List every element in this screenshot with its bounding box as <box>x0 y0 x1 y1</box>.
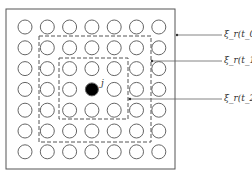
grid-node <box>18 103 32 117</box>
grid-node <box>63 103 77 117</box>
label-xi-t0: ξ_r(t_0) <box>224 29 252 39</box>
grid-node <box>152 62 166 76</box>
grid-node <box>63 82 77 96</box>
grid-node <box>85 103 99 117</box>
grid-node <box>130 41 144 55</box>
node-label-j: j <box>101 78 104 88</box>
label-xi-t2: ξ_r(t_2) <box>224 93 252 103</box>
grid-node <box>152 103 166 117</box>
grid-node <box>107 41 121 55</box>
grid-node <box>18 145 32 159</box>
grid-node <box>85 145 99 159</box>
grid-node <box>85 62 99 76</box>
grid-node <box>107 124 121 138</box>
grid-node <box>40 82 54 96</box>
grid-node <box>107 62 121 76</box>
grid-node <box>130 20 144 34</box>
grid-node <box>107 103 121 117</box>
grid-node <box>130 124 144 138</box>
grid-node <box>63 62 77 76</box>
grid-node <box>85 41 99 55</box>
grid-node <box>152 41 166 55</box>
grid-node <box>152 82 166 96</box>
grid-node <box>18 62 32 76</box>
grid-node <box>85 20 99 34</box>
grid-node <box>63 145 77 159</box>
grid-node <box>107 82 121 96</box>
grid-node <box>130 145 144 159</box>
grid-node <box>63 20 77 34</box>
center-node-j <box>85 83 98 96</box>
grid-node <box>152 124 166 138</box>
grid-node <box>130 82 144 96</box>
grid-node <box>107 20 121 34</box>
grid-node <box>18 20 32 34</box>
grid-node <box>40 62 54 76</box>
grid-node <box>18 82 32 96</box>
grid-node <box>63 124 77 138</box>
grid-node <box>40 145 54 159</box>
grid-node <box>152 145 166 159</box>
grid-node <box>40 124 54 138</box>
neighborhood-diagram <box>0 0 252 174</box>
grid-node <box>130 62 144 76</box>
grid-node <box>107 145 121 159</box>
grid-node <box>85 124 99 138</box>
grid-node <box>40 20 54 34</box>
node-grid <box>18 20 166 159</box>
grid-node <box>63 41 77 55</box>
label-xi-t1: ξ_r(t_1) <box>224 55 252 65</box>
grid-node <box>18 124 32 138</box>
grid-node <box>130 103 144 117</box>
grid-node <box>18 41 32 55</box>
grid-node <box>152 20 166 34</box>
grid-node <box>40 41 54 55</box>
grid-node <box>40 103 54 117</box>
